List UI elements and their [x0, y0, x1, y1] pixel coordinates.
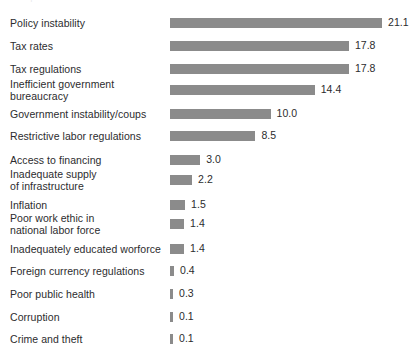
bar-track	[170, 41, 349, 51]
bar	[170, 244, 184, 254]
bar	[170, 175, 192, 185]
chart-row: Poor public health0.3	[0, 284, 416, 307]
bar	[170, 18, 382, 28]
bar-track	[170, 155, 200, 165]
bar-track	[170, 266, 174, 276]
bar-category-label: Crime and theft	[10, 334, 83, 346]
bar	[170, 41, 349, 51]
bar	[170, 266, 174, 276]
bar	[170, 109, 271, 119]
chart-row: Crime and theft0.1	[0, 329, 416, 348]
bar-track	[170, 64, 349, 74]
bar	[170, 289, 173, 299]
bar	[170, 131, 255, 141]
bar-value-label: 10.0	[277, 107, 298, 119]
horizontal-bar-chart: Most problematic factors Policy instabil…	[0, 0, 416, 348]
chart-row: Poor work ethic in national labor force1…	[0, 214, 416, 237]
bar-track	[170, 200, 185, 210]
bar-value-label: 17.8	[355, 62, 376, 74]
bar-track	[170, 85, 315, 95]
bar-value-label: 0.1	[179, 310, 194, 322]
bar-value-label: 17.8	[355, 39, 376, 51]
bar-track	[170, 18, 382, 28]
chart-row: Government instability/coups10.0	[0, 104, 416, 127]
chart-row: Inefficient government bureaucracy14.4	[0, 80, 416, 103]
bar-category-label: Access to financing	[10, 155, 101, 167]
bar-track	[170, 219, 184, 229]
bar	[170, 312, 173, 322]
chart-row: Tax rates17.8	[0, 36, 416, 59]
bar-value-label: 0.4	[180, 264, 195, 276]
bar	[170, 155, 200, 165]
bar-value-label: 3.0	[206, 153, 221, 165]
chart-row: Corruption0.1	[0, 307, 416, 330]
chart-row: Inadequate supply of infrastructure2.2	[0, 170, 416, 193]
bar-category-label: Restrictive labor regulations	[10, 131, 141, 143]
bar-track	[170, 312, 173, 322]
bar-category-label: Poor public health	[10, 289, 95, 301]
bar-category-label: Tax regulations	[10, 64, 81, 76]
chart-row: Inadequately educated worforce1.4	[0, 239, 416, 262]
bar	[170, 64, 349, 74]
chart-row: Foreign currency regulations0.4	[0, 261, 416, 284]
bar-category-label: Poor work ethic in national labor force	[10, 213, 100, 236]
bar-value-label: 1.4	[190, 217, 205, 229]
bar-value-label: 1.4	[190, 242, 205, 254]
bar-track	[170, 289, 173, 299]
clipped-chart-heading: Most problematic factors	[10, 0, 102, 2]
chart-row: Policy instability21.1	[0, 13, 416, 36]
bar-category-label: Foreign currency regulations	[10, 266, 144, 278]
bar	[170, 219, 184, 229]
bar-category-label: Inefficient government bureaucracy	[10, 79, 114, 102]
bar-track	[170, 334, 173, 344]
bar-category-label: Inadequate supply of infrastructure	[10, 169, 97, 192]
bar-value-label: 8.5	[261, 129, 276, 141]
bar-category-label: Policy instability	[10, 18, 85, 30]
bar-track	[170, 109, 271, 119]
chart-row: Restrictive labor regulations8.5	[0, 126, 416, 149]
bar-value-label: 21.1	[388, 16, 409, 28]
bar-track	[170, 131, 255, 141]
bar-track	[170, 244, 184, 254]
bar	[170, 334, 173, 344]
bar-value-label: 1.5	[191, 198, 206, 210]
bar-category-label: Inflation	[10, 200, 47, 212]
bar-value-label: 2.2	[198, 173, 213, 185]
bar-category-label: Inadequately educated worforce	[10, 244, 161, 256]
bar-value-label: 0.1	[179, 332, 194, 344]
bar-category-label: Corruption	[10, 312, 60, 324]
bar-value-label: 14.4	[321, 83, 342, 95]
bar	[170, 85, 315, 95]
bar-category-label: Government instability/coups	[10, 109, 146, 121]
bar-value-label: 0.3	[179, 287, 194, 299]
bar-track	[170, 175, 192, 185]
bar	[170, 200, 185, 210]
bar-category-label: Tax rates	[10, 41, 53, 53]
